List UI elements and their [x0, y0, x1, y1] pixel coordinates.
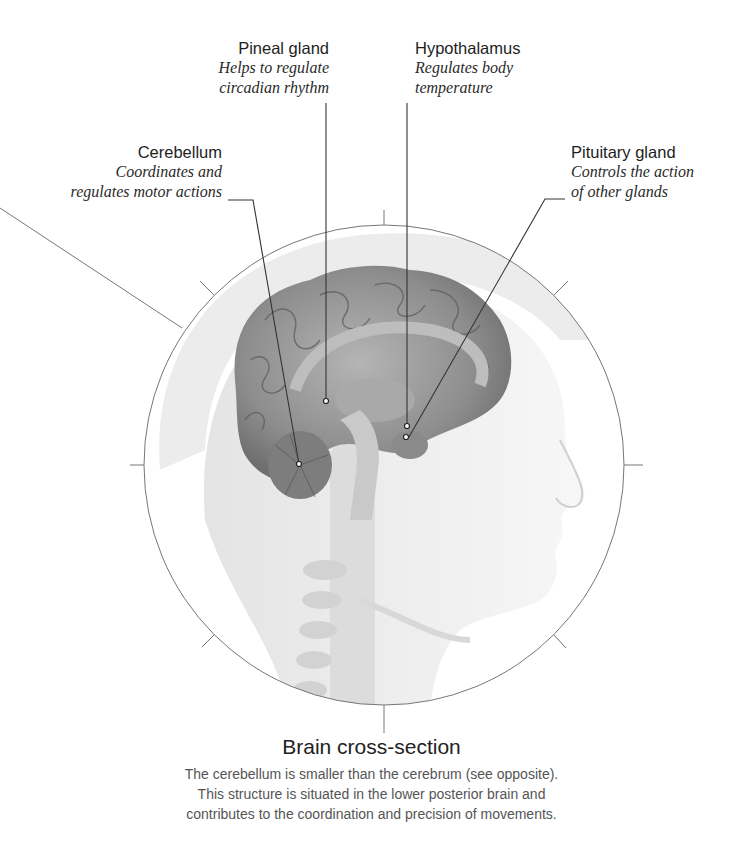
- caption-title-bold: Brain: [282, 735, 331, 758]
- pineal-desc-1: Helps to regulate: [219, 58, 330, 78]
- caption-title: Brain cross-section: [0, 735, 743, 759]
- pituitary-desc-1: Controls the action: [571, 162, 694, 182]
- label-hypothalamus: Hypothalamus Regulates body temperature: [415, 38, 520, 98]
- diagonal-guide-line: [0, 208, 182, 328]
- caption-title-rest: cross-section: [331, 735, 461, 758]
- cerebellum-desc-1: Coordinates and: [71, 162, 222, 182]
- pituitary-title: Pituitary gland: [571, 142, 694, 162]
- caption-body: The cerebellum is smaller than the cereb…: [0, 764, 743, 824]
- hypothalamus-desc-2: temperature: [415, 78, 520, 98]
- label-cerebellum: Cerebellum Coordinates and regulates mot…: [71, 142, 222, 202]
- label-pineal-gland: Pineal gland Helps to regulate circadian…: [219, 38, 330, 98]
- caption-line-3: contributes to the coordination and prec…: [0, 804, 743, 824]
- hypothalamus-desc-1: Regulates body: [415, 58, 520, 78]
- hypothalamus-title: Hypothalamus: [415, 38, 520, 58]
- label-pituitary-gland: Pituitary gland Controls the action of o…: [571, 142, 694, 202]
- cerebellum-title: Cerebellum: [71, 142, 222, 162]
- brain-cross-section-illustration: [0, 0, 743, 843]
- pineal-title: Pineal gland: [219, 38, 330, 58]
- pituitary-desc-2: of other glands: [571, 182, 694, 202]
- cerebellum-desc-2: regulates motor actions: [71, 182, 222, 202]
- pineal-desc-2: circadian rhythm: [219, 78, 330, 98]
- caption-line-1: The cerebellum is smaller than the cereb…: [0, 764, 743, 784]
- caption-line-2: This structure is situated in the lower …: [0, 784, 743, 804]
